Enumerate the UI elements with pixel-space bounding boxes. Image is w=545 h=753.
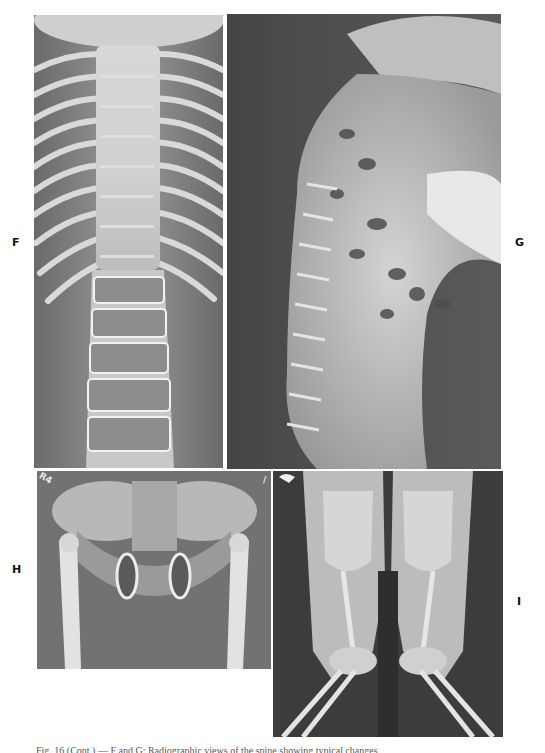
panel-label-f: F xyxy=(12,236,20,249)
panel-f-image xyxy=(34,15,223,468)
panel-label-i: I xyxy=(517,595,521,608)
figure-caption: Fig. 16 (Cont.) — F and G: Radiographic … xyxy=(36,744,516,753)
film-marker-right: / xyxy=(263,475,266,485)
lower-limbs-radiograph xyxy=(273,471,503,737)
panel-label-h: H xyxy=(12,563,21,576)
panel-label-g: G xyxy=(515,236,524,249)
spine-lateral-radiograph xyxy=(227,14,501,469)
spine-frontal-radiograph xyxy=(34,15,223,468)
panel-i-image xyxy=(273,471,503,737)
pelvis-radiograph xyxy=(37,471,271,669)
panel-h-image: R4 / xyxy=(37,471,271,669)
panel-g-image xyxy=(227,14,501,469)
